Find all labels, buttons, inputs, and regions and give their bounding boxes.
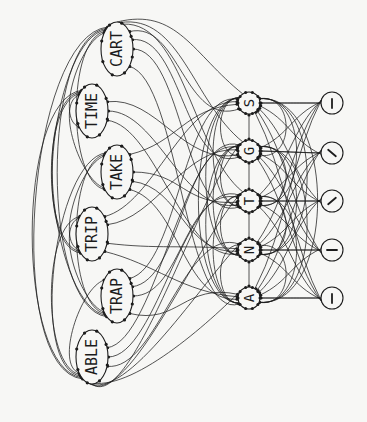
feature-letter-link <box>260 253 321 300</box>
word-letter-link <box>107 243 238 249</box>
word-node-cart: CART <box>101 22 133 76</box>
word-letter-link <box>133 49 240 208</box>
letter-node-g: G <box>238 140 260 162</box>
word-word-link <box>32 90 82 377</box>
word-node-take: TAKE <box>101 145 133 199</box>
feature-letter-link <box>257 110 322 253</box>
letter-letter-link <box>206 146 240 304</box>
network-canvas: CARTTIMETAKETRIPTRAPABLE SGTNA <box>0 0 367 422</box>
feature-node-diagonal-stroke <box>321 142 343 164</box>
feature-letter-link <box>260 102 321 149</box>
feature-node-horizontal-stroke <box>321 239 343 261</box>
word-letter-link <box>132 40 240 159</box>
feature-letter-link <box>260 249 321 296</box>
letter-node-s: S <box>238 92 260 114</box>
word-label: TIME <box>83 93 101 129</box>
word-label: TRAP <box>108 278 126 314</box>
word-label: ABLE <box>83 339 101 375</box>
word-label: TRIP <box>83 216 101 252</box>
network-diagram: CARTTIMETAKETRIPTRAPABLE SGTNA <box>0 0 367 422</box>
word-node-trap: TRAP <box>101 269 133 323</box>
letter-node-t: T <box>238 190 260 212</box>
letter-node-a: A <box>238 287 260 309</box>
feature-node-vertical-stroke <box>321 287 343 309</box>
word-label: CART <box>108 31 126 67</box>
feature-node-diagonal-stroke <box>321 190 343 212</box>
letter-label: G <box>241 147 257 155</box>
feature-letter-link <box>260 200 321 248</box>
letter-label: T <box>241 196 257 205</box>
word-node-time: TIME <box>76 84 108 138</box>
word-letter-link <box>129 66 239 305</box>
connection-layer <box>32 19 322 387</box>
word-letter-link <box>129 31 239 112</box>
word-node-able: ABLE <box>76 330 108 384</box>
word-node-trip: TRIP <box>76 207 108 261</box>
word-level: CARTTIMETAKETRIPTRAPABLE <box>75 22 134 385</box>
feature-level <box>321 92 343 309</box>
word-word-link <box>34 27 108 379</box>
letter-label: S <box>241 99 257 107</box>
letter-node-n: N <box>238 239 260 261</box>
letter-label: N <box>241 246 257 254</box>
feature-node-vertical-stroke <box>321 92 343 114</box>
word-label: TAKE <box>108 154 126 190</box>
letter-label: A <box>241 293 257 302</box>
